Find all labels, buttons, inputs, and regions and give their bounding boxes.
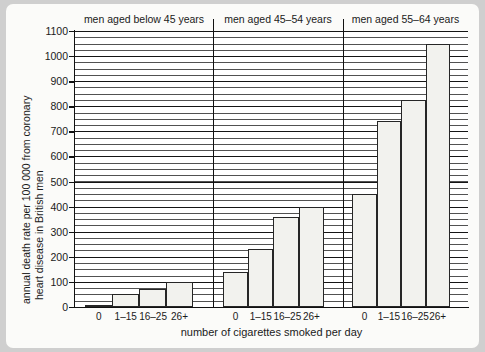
bar (401, 100, 425, 307)
group-header-2: men aged 55–64 years (343, 13, 468, 25)
bar (352, 194, 376, 307)
x-category-label: 26+ (166, 311, 193, 322)
x-category-label: 0 (352, 311, 376, 322)
x-category-label: 26+ (426, 311, 450, 322)
chart-figure: 010020030040050060070080090010001100 men… (6, 4, 479, 348)
x-category-label: 1–15 (377, 311, 401, 322)
bar (377, 121, 401, 307)
x-axis-line (74, 307, 469, 308)
x-category-label: 16–25 (273, 311, 298, 322)
x-category-label: 26+ (299, 311, 324, 322)
x-category-label: 16–25 (139, 311, 166, 322)
group-divider-2 (343, 19, 344, 308)
x-category-label: 16–25 (401, 311, 425, 322)
group-header-0: men aged below 45 years (75, 13, 213, 25)
gridline-900 (75, 81, 468, 82)
x-category-label: 0 (85, 311, 112, 322)
y-axis-title-line-1: annual death rate per 100 000 from coron… (20, 96, 32, 304)
y-tick-label-1100: 1100 (10, 26, 68, 36)
gridline-1000 (75, 56, 468, 57)
group-divider-1 (213, 19, 214, 308)
group-header-1: men aged 45–54 years (213, 13, 343, 25)
bar (248, 249, 273, 307)
y-tick-label-600: 600 (10, 151, 68, 161)
plot-area (75, 31, 468, 307)
x-category-label: 0 (223, 311, 248, 322)
x-category-label: 1–15 (112, 311, 139, 322)
bar (299, 207, 324, 307)
bar (166, 282, 193, 307)
y-axis-line (74, 30, 75, 308)
y-tick-label-1000: 1000 (10, 51, 68, 61)
y-axis-title-line-2: heart disease in British men (33, 170, 45, 300)
y-tick-label-800: 800 (10, 101, 68, 111)
bar (112, 294, 139, 307)
y-tick-label-900: 900 (10, 76, 68, 86)
bar (426, 44, 450, 307)
x-axis-title: number of cigarettes smoked per day (75, 326, 468, 338)
bar (223, 272, 248, 307)
y-tick-label-700: 700 (10, 126, 68, 136)
gridline-1100 (75, 31, 468, 32)
bar (139, 289, 166, 307)
x-category-label: 1–15 (248, 311, 273, 322)
bar (273, 217, 298, 307)
y-tick-label-0: 0 (10, 302, 68, 312)
